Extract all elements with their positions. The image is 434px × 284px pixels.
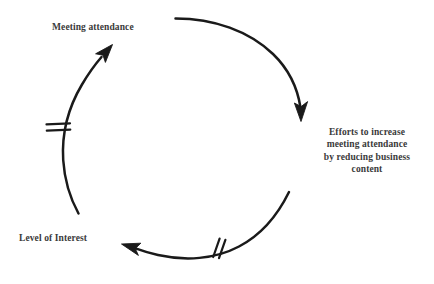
link-attendance-to-efforts bbox=[176, 19, 308, 122]
arc-interest-to-attendance bbox=[63, 57, 102, 214]
link-interest-to-attendance bbox=[47, 45, 113, 214]
node-label-meeting-attendance: Meeting attendance bbox=[52, 21, 134, 33]
causal-loop-diagram: Meeting attendance Efforts to increase m… bbox=[0, 0, 434, 284]
node-label-efforts-to-increase: Efforts to increase meeting attendance b… bbox=[308, 126, 426, 176]
arc-efforts-to-interest bbox=[136, 192, 290, 258]
delay-mark-interest-to-attendance bbox=[47, 123, 71, 130]
arc-attendance-to-efforts bbox=[176, 19, 301, 108]
link-efforts-to-interest bbox=[122, 192, 290, 258]
node-label-level-of-interest: Level of Interest bbox=[19, 232, 87, 244]
